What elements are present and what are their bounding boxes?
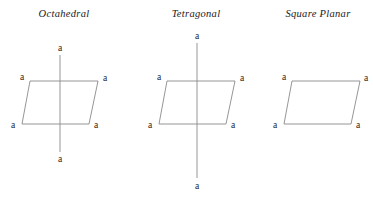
ligand-label-octahedral-equatorial-bottom-left: a xyxy=(11,120,15,130)
diagram-canvas xyxy=(0,0,373,197)
ligand-label-octahedral-equatorial-top-left: a xyxy=(20,72,24,82)
figure-title-tetragonal: Tetragonal xyxy=(172,8,221,19)
figure-tetragonal xyxy=(159,43,235,178)
ligand-label-square-planar-equatorial-bottom-left: a xyxy=(273,120,277,130)
ligand-label-tetragonal-equatorial-bottom-left: a xyxy=(148,120,152,130)
figure-title-square-planar: Square Planar xyxy=(285,8,350,19)
ligand-label-tetragonal-axial-bottom: a xyxy=(195,181,199,191)
ligand-label-tetragonal-axial-top: a xyxy=(195,31,199,41)
ligand-label-octahedral-equatorial-bottom-right: a xyxy=(94,120,98,130)
ligand-label-square-planar-equatorial-top-right: a xyxy=(364,73,368,83)
ligand-label-octahedral-axial-bottom: a xyxy=(58,154,62,164)
figure-octahedral xyxy=(22,55,98,152)
ligand-label-tetragonal-equatorial-top-left: a xyxy=(157,72,161,82)
figure-square-planar xyxy=(284,81,360,124)
ligand-label-square-planar-equatorial-top-left: a xyxy=(282,72,286,82)
ligand-label-tetragonal-equatorial-bottom-right: a xyxy=(231,120,235,130)
figure-title-octahedral: Octahedral xyxy=(39,8,90,19)
ligand-label-octahedral-equatorial-top-right: a xyxy=(103,73,107,83)
equatorial-plane-parallelogram xyxy=(284,81,360,124)
ligand-label-square-planar-equatorial-bottom-right: a xyxy=(356,120,360,130)
ligand-label-octahedral-axial-top: a xyxy=(58,43,62,53)
ligand-label-tetragonal-equatorial-top-right: a xyxy=(240,73,244,83)
